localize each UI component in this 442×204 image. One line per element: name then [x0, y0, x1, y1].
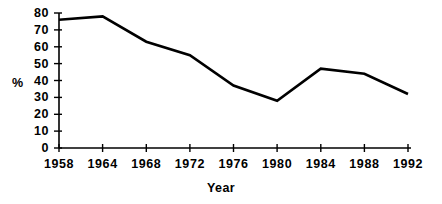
- line-chart: 80 70 60 50 40 30 20 10 0 % 1958 1964 19…: [0, 0, 442, 204]
- y-tick-label-30: 30: [23, 91, 49, 104]
- x-tick-label-1992: 1992: [385, 158, 431, 171]
- y-tick-label-0: 0: [23, 142, 49, 155]
- chart-plot-area: [0, 0, 442, 204]
- y-tick-label-10: 10: [23, 125, 49, 138]
- y-axis-title: %: [12, 77, 23, 90]
- y-tick-label-80: 80: [23, 7, 49, 20]
- x-tick-label-1972: 1972: [167, 158, 213, 171]
- y-tick-label-60: 60: [23, 41, 49, 54]
- x-tick-label-1980: 1980: [254, 158, 300, 171]
- y-axis-ticks: [54, 13, 62, 148]
- x-tick-label-1976: 1976: [211, 158, 257, 171]
- data-series-line: [59, 16, 408, 100]
- x-tick-label-1988: 1988: [341, 158, 387, 171]
- x-tick-label-1964: 1964: [80, 158, 126, 171]
- x-tick-label-1958: 1958: [36, 158, 82, 171]
- y-tick-label-20: 20: [23, 108, 49, 121]
- x-tick-label-1984: 1984: [298, 158, 344, 171]
- x-axis-title: Year: [0, 182, 442, 195]
- x-tick-label-1968: 1968: [123, 158, 169, 171]
- y-tick-label-70: 70: [23, 24, 49, 37]
- y-tick-label-50: 50: [23, 58, 49, 71]
- y-tick-label-40: 40: [23, 75, 49, 88]
